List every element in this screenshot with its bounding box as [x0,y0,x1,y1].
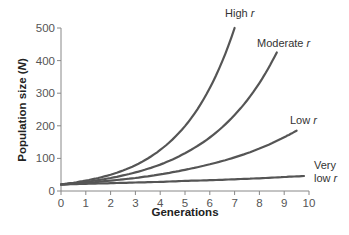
y-tick-label: 300 [36,87,55,99]
label-very-low-r-line1: Very [314,159,337,171]
label-low-r: Low r [290,114,318,126]
label-very-low-r-line2: low r [314,172,339,184]
y-tick-label: 100 [36,152,55,164]
y-axis-title-close: ) [16,58,28,62]
x-tick-label: 10 [303,197,316,209]
y-axis-title-text: Population size ( [16,70,28,162]
curve-high-r [61,28,235,185]
series-curves [61,28,304,185]
x-tick-label: 0 [58,197,64,209]
y-tick-label: 500 [36,22,55,34]
x-tick-label: 3 [132,197,138,209]
x-tick-label: 7 [231,197,237,209]
x-tick-label: 9 [281,197,287,209]
x-tick-label: 8 [256,197,262,209]
y-tick-label: 200 [36,120,55,132]
label-high-r: High r [225,7,256,19]
curve-moderate-r [61,53,277,185]
label-moderate-r: Moderate r [257,37,312,49]
y-tick-label: 0 [49,185,55,197]
y-axis-title: Population size (N) [16,58,28,162]
x-tick-label: 2 [107,197,113,209]
population-growth-chart: 0100200300400500 012345678910 Generation… [0,0,349,235]
y-tick-label: 400 [36,55,55,67]
x-axis-title: Generations [151,206,218,218]
y-axis-ticks: 0100200300400500 [36,22,61,197]
x-tick-label: 1 [83,197,89,209]
